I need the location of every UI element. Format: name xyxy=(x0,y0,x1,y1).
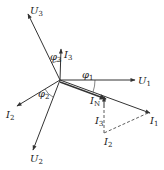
phasor-I3 xyxy=(60,49,61,80)
label-U3: U3 xyxy=(30,5,43,18)
label-phi2: φ2 xyxy=(38,88,49,101)
label-I1: I1 xyxy=(149,115,158,128)
label-I3-prime: I3 xyxy=(94,115,103,128)
label-I2: I2 xyxy=(5,109,14,122)
label-I3: I3 xyxy=(63,49,72,62)
dashed-I2-prime xyxy=(104,113,148,133)
phasor-IN xyxy=(60,82,106,99)
phasor-I1 xyxy=(60,80,150,113)
phasor-U3 xyxy=(28,14,60,80)
label-IN: IN xyxy=(89,95,100,108)
phasor-diagram: U1 U3 U2 I1 I2 I3 IN I3 I2 φ1 φ2 φ3 xyxy=(0,0,164,170)
label-U1: U1 xyxy=(138,75,151,88)
label-U2: U2 xyxy=(30,153,43,166)
label-I2-prime: I2 xyxy=(103,136,112,149)
